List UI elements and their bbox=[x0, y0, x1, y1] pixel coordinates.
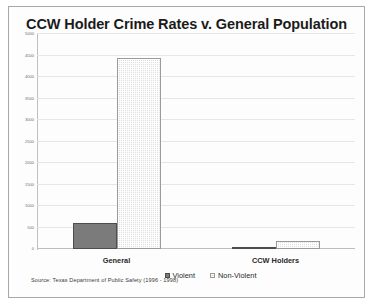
y-axis-tick-label: 1500 bbox=[25, 181, 34, 186]
y-axis-tick-label: 500 bbox=[27, 224, 34, 229]
x-axis-label-ccw-holders: CCW Holders bbox=[226, 256, 326, 265]
y-axis-tick-label: 3500 bbox=[25, 95, 34, 100]
legend-item-non-violent[interactable]: Non-Violent bbox=[210, 271, 256, 280]
x-axis-label-general: General bbox=[67, 256, 167, 265]
bar-series-group bbox=[37, 34, 355, 249]
legend-swatch-icon bbox=[210, 273, 215, 278]
legend-label: Non-Violent bbox=[218, 271, 256, 280]
y-axis-tick-label: 2500 bbox=[25, 138, 34, 143]
chart-title: CCW Holder Crime Rates v. General Popula… bbox=[9, 16, 364, 32]
y-axis-tick-label: 1000 bbox=[25, 203, 34, 208]
y-axis-tick-label: 4500 bbox=[25, 52, 34, 57]
source-note: Source: Texas Department of Public Safet… bbox=[31, 277, 178, 283]
bar-violent-general bbox=[73, 223, 117, 249]
plot-area: 0500100015002000250030003500400045005000 bbox=[37, 34, 355, 249]
y-axis-tick-label: 0 bbox=[32, 246, 34, 251]
y-axis-tick-label: 3000 bbox=[25, 117, 34, 122]
chart-container: CCW Holder Crime Rates v. General Popula… bbox=[8, 6, 365, 298]
y-axis-tick-label: 4000 bbox=[25, 74, 34, 79]
bar-violent-ccw-holders bbox=[232, 247, 276, 249]
y-axis-tick-label: 2000 bbox=[25, 160, 34, 165]
bar-non-violent-general bbox=[117, 58, 161, 249]
y-axis-tick-label: 5000 bbox=[25, 31, 34, 36]
bar-non-violent-ccw-holders bbox=[276, 241, 320, 249]
